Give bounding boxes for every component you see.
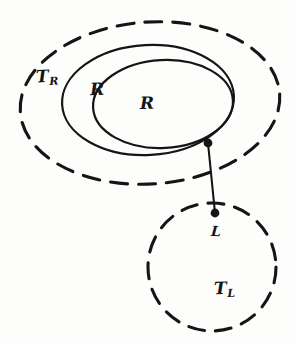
label-t-l-base: T: [214, 278, 227, 298]
label-t-l: TL: [214, 280, 236, 300]
r-solid-ellipse: [91, 56, 235, 151]
diagram-figure: [0, 0, 295, 344]
label-l-base: L: [210, 223, 221, 240]
label-r: R: [140, 95, 154, 112]
label-t-l-subscript: L: [227, 287, 235, 300]
junction-point-dot: [204, 139, 213, 148]
diagram-canvas: TR R′ R L TL: [0, 0, 295, 344]
label-t-r-base: T: [35, 66, 49, 87]
label-r-prime: R′: [90, 79, 108, 99]
label-l: L: [211, 224, 222, 239]
label-r-base: R: [140, 93, 154, 113]
r-region-shape: [91, 56, 235, 151]
label-t-r: TR: [36, 67, 59, 87]
label-r-prime-base: R: [90, 79, 105, 99]
l-point-dot: [211, 209, 220, 218]
label-r-prime-mark: ′: [104, 78, 108, 93]
label-t-r-subscript: R: [49, 74, 59, 87]
